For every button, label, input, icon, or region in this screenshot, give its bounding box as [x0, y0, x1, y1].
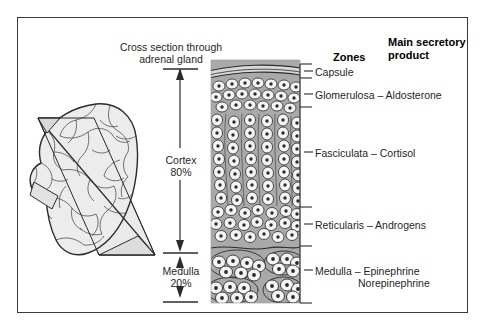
adrenal-gland-figure: Cross section through adrenal gland Zone… [0, 0, 486, 330]
figure-artwork [0, 0, 486, 330]
adrenal-gland-illustration [30, 104, 155, 255]
section-pointer-arrow [163, 68, 198, 148]
histology-column [205, 60, 306, 304]
bracket-cortex [163, 180, 198, 253]
bracket-medulla [163, 256, 198, 302]
zone-leader-lines [300, 64, 313, 303]
